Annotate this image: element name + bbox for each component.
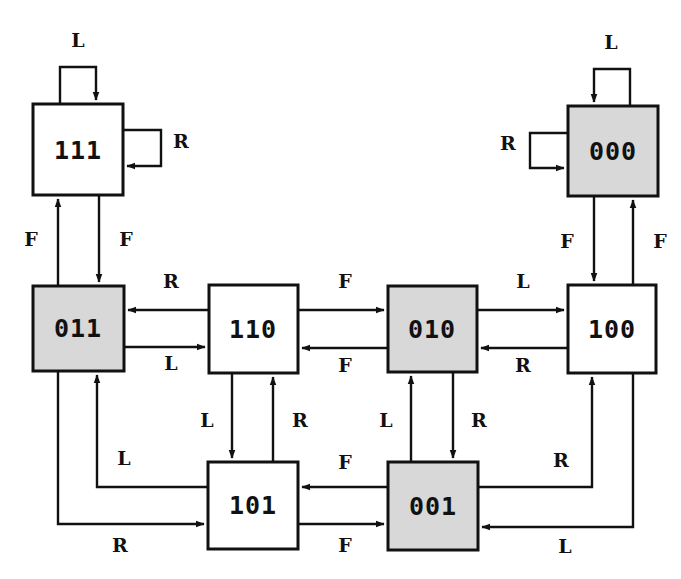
edge-label-110-011-R: R (163, 270, 179, 292)
node-011-label: 011 (54, 314, 102, 343)
node-101[interactable]: 101 (208, 462, 298, 549)
edge-label-111-111-L: L (71, 29, 84, 51)
edge-label-000-100-F: F (560, 230, 574, 252)
edge-label-010-100-L: L (516, 270, 529, 292)
edge-label-011-110-L: L (164, 352, 177, 374)
edge-label-010-001-R: R (471, 409, 487, 431)
edge-label-000-000-R: R (500, 132, 516, 154)
edge-label-010-110-F: F (338, 354, 352, 376)
edge-label-000-000-L: L (604, 31, 617, 53)
edge-000-000-R (530, 133, 568, 168)
edge-label-100-000-F: F (653, 230, 667, 252)
state-diagram-canvas: 111 000 011 110 010 100 (0, 0, 681, 579)
edge-001-100-R (478, 377, 592, 487)
edge-label-001-100-R: R (553, 449, 569, 471)
node-010[interactable]: 010 (388, 286, 477, 372)
node-110[interactable]: 110 (209, 285, 298, 373)
node-001[interactable]: 001 (388, 462, 478, 550)
edge-label-101-011-L: L (117, 447, 130, 469)
edge-label-111-111-R: R (173, 130, 189, 152)
edge-111-111-R (123, 130, 161, 166)
node-100[interactable]: 100 (568, 285, 656, 373)
nodes-layer: 111 000 011 110 010 100 (33, 104, 658, 550)
edge-label-011-101-R: R (112, 534, 128, 556)
edge-label-100-001-L: L (558, 535, 571, 557)
edge-label-101-110-R: R (292, 409, 308, 431)
edge-label-001-101-F: F (338, 451, 352, 473)
node-110-label: 110 (229, 315, 277, 344)
node-100-label: 100 (588, 315, 636, 344)
edge-label-110-101-L: L (200, 409, 213, 431)
state-diagram-container: 111 000 011 110 010 100 (0, 0, 681, 579)
node-111-label: 111 (54, 136, 102, 165)
edge-label-011-111-F: F (24, 228, 38, 250)
edge-label-100-010-R: R (515, 354, 531, 376)
edge-011-101-R (58, 371, 204, 524)
node-111[interactable]: 111 (33, 104, 123, 195)
edge-label-110-010-F: F (338, 270, 352, 292)
node-010-label: 010 (408, 315, 456, 344)
edge-000-000-L (594, 69, 630, 106)
edge-101-011-L (97, 375, 208, 487)
edge-label-001-010-L: L (379, 409, 392, 431)
node-011[interactable]: 011 (33, 286, 124, 371)
node-101-label: 101 (229, 491, 277, 520)
edge-111-111-L (60, 67, 96, 104)
edge-label-111-011-F: F (119, 228, 133, 250)
node-000-label: 000 (589, 137, 637, 166)
node-001-label: 001 (409, 492, 457, 521)
node-000[interactable]: 000 (568, 106, 658, 196)
edge-label-101-001-F: F (338, 534, 352, 556)
